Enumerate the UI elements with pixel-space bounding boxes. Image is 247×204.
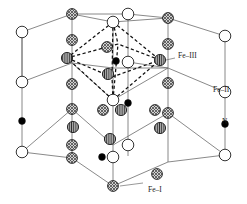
- atom-fe2: [107, 16, 119, 28]
- label-fe-ii: Fe–II: [213, 85, 230, 94]
- atoms-layer: [16, 8, 231, 191]
- atom-n: [99, 154, 106, 161]
- atom-fe1: [67, 153, 78, 164]
- atom-fe1: [67, 79, 78, 90]
- octahedron-edge: [113, 60, 160, 100]
- atom-fe2: [122, 56, 134, 68]
- cell-edge: [22, 63, 72, 82]
- atom-fe2: [219, 149, 231, 161]
- atom-fe2: [16, 76, 28, 88]
- cell-edge: [113, 18, 168, 22]
- atom-fe1: [108, 181, 119, 192]
- cell-edge: [22, 152, 72, 158]
- label-n: N: [222, 117, 228, 126]
- cell-edge: [72, 158, 113, 186]
- atom-fe1: [67, 104, 78, 115]
- atom-fe3: [61, 52, 72, 63]
- atom-fe2: [122, 8, 134, 20]
- cell-edge: [22, 14, 72, 32]
- atom-fe2: [107, 151, 119, 163]
- atom-fe2: [16, 146, 28, 158]
- cell-edge: [113, 68, 168, 100]
- atom-fe2: [16, 26, 28, 38]
- cell-edges-layer: [22, 14, 225, 186]
- atom-n: [19, 118, 26, 125]
- atom-fe1: [163, 108, 174, 119]
- fe1-leader: [120, 183, 143, 186]
- cell-edge: [22, 109, 72, 152]
- atom-fe3: [154, 122, 165, 133]
- cell-edge: [72, 63, 113, 68]
- atom-fe1: [163, 78, 174, 89]
- atom-fe2: [107, 94, 119, 106]
- cell-edge: [168, 18, 225, 36]
- atom-fe1: [98, 105, 109, 116]
- atom-fe1: [163, 39, 174, 50]
- atom-fe1: [152, 169, 163, 180]
- atom-n: [125, 100, 132, 107]
- atom-fe3: [67, 121, 78, 132]
- label-fe-i: Fe–I: [148, 185, 162, 194]
- atom-fe1: [67, 140, 78, 151]
- octahedron-edge: [113, 22, 160, 60]
- atom-fe2: [122, 139, 134, 151]
- atom-fe3: [154, 54, 165, 65]
- structure-canvas: Fe–III Fe–II N Fe–I: [0, 0, 247, 204]
- atom-fe3: [104, 133, 115, 144]
- cell-edge: [168, 113, 225, 155]
- atom-fe2: [219, 30, 231, 42]
- atom-fe1: [67, 35, 78, 46]
- atom-fe3: [115, 104, 126, 115]
- atom-n: [113, 58, 120, 65]
- fe3-leader: [166, 58, 175, 60]
- atom-fe3: [102, 68, 113, 79]
- cell-edge: [72, 14, 113, 22]
- crystal-structure-figure: Fe–III Fe–II N Fe–I: [0, 0, 247, 204]
- label-fe-iii: Fe–III: [178, 51, 197, 60]
- atom-fe1: [67, 9, 78, 20]
- cell-edge: [168, 155, 225, 162]
- atom-fe1: [150, 105, 161, 116]
- atom-fe1: [163, 13, 174, 24]
- octahedron-edge: [113, 44, 118, 100]
- atom-fe1: [102, 42, 113, 53]
